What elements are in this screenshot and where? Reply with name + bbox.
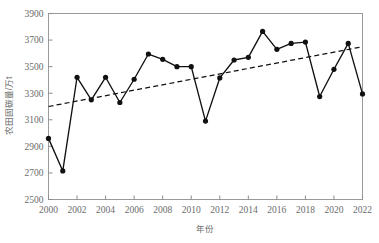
data-point-marker — [360, 91, 365, 96]
y-tick-label: 2500 — [25, 195, 44, 205]
data-point-marker — [203, 119, 208, 124]
data-point-marker — [46, 136, 51, 141]
data-point-marker — [289, 41, 294, 46]
x-axis-ticks: 2000200220042006200820102012201420162018… — [39, 196, 372, 215]
data-point-marker — [146, 51, 151, 56]
line-chart: 25002700290031003300350037003900 2000200… — [0, 0, 379, 243]
data-point-marker — [160, 57, 165, 62]
y-tick-label: 3300 — [25, 89, 44, 99]
data-point-marker — [303, 39, 308, 44]
data-point-marker — [189, 64, 194, 69]
data-point-marker — [331, 67, 336, 72]
plot-frame — [49, 14, 363, 200]
x-tick-label: 2012 — [210, 205, 229, 215]
data-point-marker — [246, 55, 251, 60]
data-point-marker — [346, 41, 351, 46]
x-tick-label: 2004 — [96, 205, 115, 215]
x-tick-label: 2014 — [239, 205, 258, 215]
data-point-marker — [231, 57, 236, 62]
trend-line — [49, 47, 363, 107]
x-tick-label: 2022 — [353, 205, 372, 215]
x-tick-label: 2000 — [39, 205, 58, 215]
y-axis-title: 农田固碳量/万t — [4, 76, 14, 135]
data-point-marker — [74, 75, 79, 80]
y-tick-label: 3100 — [25, 115, 44, 125]
x-tick-label: 2008 — [153, 205, 172, 215]
x-tick-label: 2002 — [68, 205, 87, 215]
data-point-marker — [217, 75, 222, 80]
data-point-marker — [260, 29, 265, 34]
y-tick-label: 2700 — [25, 168, 44, 178]
data-point-marker — [317, 94, 322, 99]
x-axis-title: 年份 — [196, 224, 214, 234]
data-point-marker — [174, 64, 179, 69]
y-tick-label: 2900 — [25, 142, 44, 152]
data-point-marker — [117, 100, 122, 105]
x-tick-label: 2016 — [267, 205, 286, 215]
x-tick-label: 2010 — [182, 205, 201, 215]
data-point-marker — [274, 47, 279, 52]
y-tick-label: 3900 — [25, 9, 44, 19]
data-point-marker — [60, 168, 65, 173]
data-series-line — [49, 31, 363, 171]
data-point-marker — [89, 97, 94, 102]
data-point-markers — [46, 29, 365, 174]
data-point-marker — [132, 77, 137, 82]
x-tick-label: 2020 — [324, 205, 343, 215]
y-tick-label: 3500 — [25, 62, 44, 72]
y-tick-label: 3700 — [25, 35, 44, 45]
x-tick-label: 2006 — [125, 205, 144, 215]
x-tick-label: 2018 — [296, 205, 315, 215]
data-point-marker — [103, 75, 108, 80]
chart-figure: 25002700290031003300350037003900 2000200… — [0, 0, 379, 243]
